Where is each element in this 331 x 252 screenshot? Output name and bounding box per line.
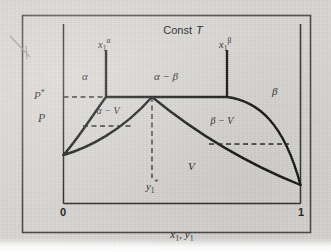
figure-page: ConstT P P* x1α x1β y1* α α − β β α − V … xyxy=(0,0,331,252)
region-label-beta: β xyxy=(271,85,278,97)
region-label-beta-vapor: β − V xyxy=(210,115,236,126)
p-star-label: P* xyxy=(33,88,45,101)
x1-beta-superscript: β xyxy=(227,36,231,45)
figure-border xyxy=(23,16,311,233)
phase-diagram: ConstT P P* x1α x1β y1* α α − β β α − V … xyxy=(0,0,331,252)
x-tick-1: 1 xyxy=(298,206,304,218)
beta-liquidus-curve xyxy=(227,97,301,185)
x1-beta-subscript: 1 xyxy=(224,44,228,53)
beta-vapor-dew-curve xyxy=(152,97,301,185)
x-tick-0: 0 xyxy=(60,206,66,218)
stray-pencil-mark xyxy=(10,36,30,59)
region-label-vapor: V xyxy=(188,160,196,172)
x1-alpha-subscript: 1 xyxy=(103,44,107,53)
region-label-alpha: α xyxy=(82,70,88,82)
x-axis-label-y-sub: 1 xyxy=(190,234,194,243)
y-axis-label: P xyxy=(37,111,46,125)
x1-alpha-superscript: α xyxy=(106,36,110,45)
p-star-superscript: * xyxy=(41,88,45,97)
x-axis-label: x1, y1 xyxy=(169,228,193,243)
y1-star-label: y1* xyxy=(145,178,158,195)
x1-alpha-label: x1α xyxy=(97,36,110,53)
region-label-alpha-vapor: α − V xyxy=(96,105,121,116)
chart-title: ConstT xyxy=(163,24,204,36)
y1-star-superscript: * xyxy=(154,178,158,187)
y1-star-subscript: 1 xyxy=(151,186,155,195)
region-label-alpha-beta: α − β xyxy=(154,70,179,82)
x1-beta-label: x1β xyxy=(218,36,231,53)
chart-title-italic: T xyxy=(196,24,204,36)
chart-title-plain: Const xyxy=(163,24,192,36)
